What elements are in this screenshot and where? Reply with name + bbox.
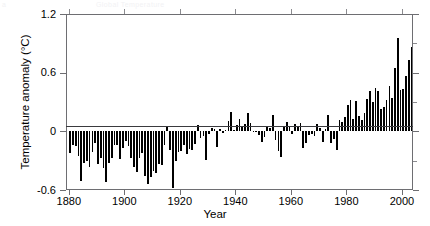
bar: [72, 131, 74, 145]
bar: [94, 131, 96, 143]
bar: [200, 131, 202, 138]
bar: [394, 68, 396, 132]
y-tick: [60, 190, 66, 191]
cropped-header-left: a: [2, 0, 6, 9]
x-tick-top: [180, 9, 181, 14]
bar: [322, 131, 324, 142]
bar: [183, 131, 185, 145]
bar: [141, 131, 143, 153]
bar: [336, 131, 338, 150]
bar: [89, 131, 91, 166]
bar: [291, 131, 293, 134]
bar: [83, 131, 85, 162]
zero-baseline: [66, 126, 413, 127]
x-tick-top: [69, 9, 70, 14]
bar: [241, 126, 243, 131]
x-tick-label: 1980: [334, 196, 358, 207]
cropped-header-text: a Global Temperature: [0, 0, 430, 9]
bar: [203, 131, 205, 136]
bar: [147, 131, 149, 184]
y-axis-title: Temperature anomaly (°C): [19, 7, 31, 197]
bar: [344, 117, 346, 132]
y-tick-right: [413, 14, 419, 15]
bar: [319, 128, 321, 131]
y-tick-minor: [413, 102, 417, 103]
bar: [244, 124, 246, 132]
x-tick-top: [235, 9, 236, 14]
y-tick-minor: [413, 161, 417, 162]
bar: [136, 131, 138, 172]
bar: [211, 128, 213, 131]
bar: [408, 60, 410, 131]
bar: [205, 131, 207, 159]
bar: [225, 130, 227, 131]
bar: [186, 131, 188, 153]
bar: [397, 38, 399, 131]
x-tick-label: 1960: [279, 196, 303, 207]
bar: [266, 127, 268, 131]
x-tick-top: [124, 9, 125, 14]
bar: [280, 131, 282, 156]
bar: [289, 127, 291, 131]
bar: [314, 131, 316, 136]
x-tick-label: 1940: [223, 196, 247, 207]
bar: [311, 131, 313, 134]
y-tick: [60, 73, 66, 74]
bar: [191, 131, 193, 150]
bar: [411, 47, 413, 131]
bar: [297, 127, 299, 131]
bar: [261, 131, 263, 142]
bar: [372, 102, 374, 131]
bar: [158, 131, 160, 163]
bar: [172, 131, 174, 188]
bar: [97, 131, 99, 163]
bar: [169, 131, 171, 150]
bar: [175, 131, 177, 160]
bar: [358, 116, 360, 132]
y-tick-label: 0.6: [41, 67, 56, 78]
bar: [92, 131, 94, 152]
bar: [194, 131, 196, 144]
x-tick-label: 1880: [57, 196, 81, 207]
bar: [133, 131, 135, 166]
bar: [258, 131, 260, 135]
bar: [150, 131, 152, 177]
bar: [128, 131, 130, 146]
bar: [75, 131, 77, 146]
bar: [125, 131, 127, 141]
bar: [272, 115, 274, 132]
bar: [80, 131, 82, 181]
bar: [380, 109, 382, 131]
bar: [250, 123, 252, 132]
y-tick-label: -0.6: [37, 185, 56, 196]
bar: [153, 131, 155, 171]
bar: [364, 113, 366, 132]
y-tick: [60, 14, 66, 15]
bar: [247, 113, 249, 132]
bar: [69, 131, 71, 153]
bar: [330, 131, 332, 143]
temperature-anomaly-figure: a Global Temperature -0.600.61.2 1880190…: [0, 0, 430, 226]
y-tick-label: 0: [50, 126, 56, 137]
bar: [278, 131, 280, 151]
bar: [233, 130, 235, 131]
bar: [86, 131, 88, 160]
y-tick-right: [413, 190, 419, 191]
bar: [275, 131, 277, 140]
bar: [255, 131, 257, 132]
bar: [269, 128, 271, 131]
x-tick-top: [346, 9, 347, 14]
bar: [405, 76, 407, 132]
y-tick-right: [413, 131, 419, 132]
bar: [222, 131, 224, 133]
bar: [161, 131, 163, 164]
bar: [78, 131, 80, 155]
bar: [264, 131, 266, 137]
bar: [180, 131, 182, 151]
bar: [283, 127, 285, 131]
bar: [166, 127, 168, 131]
bar: [100, 131, 102, 157]
bar: [130, 131, 132, 157]
bar: [300, 123, 302, 132]
bar: [253, 131, 255, 132]
